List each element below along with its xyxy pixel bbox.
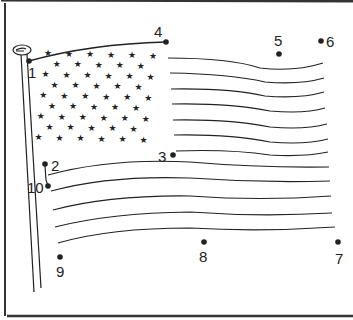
star-icon: ★ xyxy=(50,80,58,90)
star-icon: ★ xyxy=(46,122,54,132)
dot-number-label: 8 xyxy=(199,248,207,265)
star-icon: ★ xyxy=(76,133,84,143)
lower-stripes xyxy=(48,161,335,243)
dot-number-label: 3 xyxy=(158,148,166,165)
star-icon: ★ xyxy=(60,91,68,101)
star-icon: ★ xyxy=(102,92,110,102)
dot-8[interactable] xyxy=(201,239,207,245)
flag-bottom-connector xyxy=(45,166,48,186)
star-icon: ★ xyxy=(121,113,129,123)
star-icon: ★ xyxy=(128,50,136,60)
star-icon: ★ xyxy=(105,71,113,81)
star-field: ★★★★★★★★★★★★★★★★★★★★★★★★★★★★★★★★★★★★★★★★… xyxy=(34,48,157,145)
star-icon: ★ xyxy=(58,112,66,122)
dot-4[interactable] xyxy=(163,39,169,45)
star-icon: ★ xyxy=(39,90,47,100)
star-icon: ★ xyxy=(63,70,71,80)
dot-6[interactable] xyxy=(318,38,324,44)
dot-number-label: 5 xyxy=(274,32,282,49)
dot-7[interactable] xyxy=(335,239,341,245)
star-icon: ★ xyxy=(107,50,115,60)
star-icon: ★ xyxy=(149,51,157,61)
dot-number-label: 7 xyxy=(335,250,343,267)
star-icon: ★ xyxy=(92,81,100,91)
star-icon: ★ xyxy=(126,71,134,81)
star-icon: ★ xyxy=(118,134,126,144)
star-icon: ★ xyxy=(88,123,96,133)
star-icon: ★ xyxy=(55,133,63,143)
star-icon: ★ xyxy=(79,112,87,122)
star-icon: ★ xyxy=(95,60,103,70)
star-icon: ★ xyxy=(71,80,79,90)
dot-3[interactable] xyxy=(170,152,176,158)
dot-number-label: 9 xyxy=(56,263,64,280)
star-icon: ★ xyxy=(44,48,52,58)
star-icon: ★ xyxy=(84,70,92,80)
star-icon: ★ xyxy=(53,59,61,69)
dot-9[interactable] xyxy=(57,254,63,260)
star-icon: ★ xyxy=(86,49,94,59)
star-icon: ★ xyxy=(48,101,56,111)
star-icon: ★ xyxy=(111,102,119,112)
connect-the-dots-flag-worksheet: ★★★★★★★★★★★★★★★★★★★★★★★★★★★★★★★★★★★★★★★★… xyxy=(0,0,353,320)
star-icon: ★ xyxy=(142,114,150,124)
upper-stripes xyxy=(168,58,328,156)
dot-5[interactable] xyxy=(276,51,282,57)
star-icon: ★ xyxy=(139,135,147,145)
star-icon: ★ xyxy=(34,132,42,142)
star-icon: ★ xyxy=(144,93,152,103)
star-icon: ★ xyxy=(100,113,108,123)
star-icon: ★ xyxy=(123,92,131,102)
star-icon: ★ xyxy=(116,60,124,70)
dot-number-label: 4 xyxy=(154,23,162,40)
star-icon: ★ xyxy=(37,111,45,121)
star-icon: ★ xyxy=(132,103,140,113)
dot-10[interactable] xyxy=(45,183,51,189)
star-icon: ★ xyxy=(134,82,142,92)
star-icon: ★ xyxy=(113,81,121,91)
dot-number-label: 6 xyxy=(326,33,334,50)
dot-number-label: 2 xyxy=(51,157,59,174)
star-icon: ★ xyxy=(137,61,145,71)
dot-1[interactable] xyxy=(26,58,32,64)
dot-number-label: 10 xyxy=(27,179,44,196)
dot-2[interactable] xyxy=(42,161,48,167)
star-icon: ★ xyxy=(81,91,89,101)
star-icon: ★ xyxy=(130,124,138,134)
star-icon: ★ xyxy=(74,59,82,69)
dot-number-label: 1 xyxy=(28,64,36,81)
star-icon: ★ xyxy=(67,122,75,132)
star-icon: ★ xyxy=(147,72,155,82)
star-icon: ★ xyxy=(109,123,117,133)
star-icon: ★ xyxy=(69,101,77,111)
flag-pole xyxy=(13,45,41,292)
star-icon: ★ xyxy=(42,69,50,79)
star-icon: ★ xyxy=(97,134,105,144)
star-icon: ★ xyxy=(90,102,98,112)
star-icon: ★ xyxy=(65,49,73,59)
